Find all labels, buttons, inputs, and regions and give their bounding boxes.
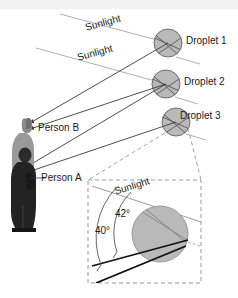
exit-ray-droplet3: [186, 134, 206, 140]
droplet-3-label: Droplet 3: [180, 110, 221, 121]
droplet-1-label: Droplet 1: [186, 35, 227, 46]
rainbow-ray-diagram: Droplet 1 Droplet 2 Droplet 3 Sunlight S…: [0, 0, 238, 298]
exit-ray-droplet1: [176, 57, 200, 64]
droplet-2-label: Droplet 2: [184, 76, 225, 87]
inset-callout-lines: [88, 128, 201, 180]
observer-rays: [28, 43, 176, 172]
angle-42-label: 42°: [115, 208, 130, 219]
person-b-label: Person B: [38, 122, 79, 133]
person-a-label: Person A: [41, 172, 82, 183]
callout-line-right: [188, 128, 201, 180]
angle-40-label: 40°: [95, 225, 110, 236]
callout-line-left: [88, 133, 165, 180]
exit-ray-droplet2: [175, 97, 198, 104]
